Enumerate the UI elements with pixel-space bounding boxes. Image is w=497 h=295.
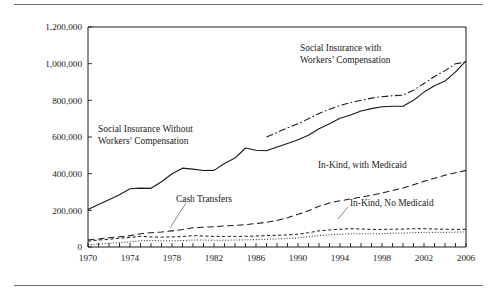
line-chart: 0200,000400,000600,000800,0001,000,0001,…	[0, 0, 497, 295]
y-tick-label: 800,000	[52, 96, 82, 106]
series-label-social-with-line2: Workers’ Compensation	[300, 55, 391, 65]
x-tick-label: 1986	[247, 253, 266, 263]
x-axis-ticks	[88, 243, 466, 247]
y-tick-label: 600,000	[52, 132, 82, 142]
y-tick-label: 1,000,000	[45, 59, 82, 69]
series-line	[88, 229, 466, 241]
x-tick-label: 2002	[415, 253, 434, 263]
series-label-social-without-line1: Social Insurance Without	[98, 124, 193, 134]
y-tick-label: 200,000	[52, 206, 82, 216]
x-tick-label: 1978	[163, 253, 182, 263]
cash-transfers-leader-line	[170, 203, 186, 228]
y-tick-label: 1,200,000	[45, 22, 82, 32]
x-tick-label: 1970	[79, 253, 98, 263]
x-axis-tick-labels: 1970197419781982198619901994199820022006	[79, 253, 476, 263]
y-axis-ticks	[88, 27, 92, 247]
series-line	[88, 232, 466, 245]
series-line	[267, 62, 467, 137]
y-axis-tick-labels: 0200,000400,000600,000800,0001,000,0001,…	[45, 22, 82, 252]
y-tick-label: 400,000	[52, 169, 82, 179]
series-label-inkind-no-medicaid: In-Kind, No Medicaid	[350, 198, 434, 208]
y-tick-label: 0	[77, 242, 82, 252]
series-label-social-with-line1: Social Insurance with	[300, 43, 382, 53]
x-tick-label: 1974	[121, 253, 140, 263]
x-tick-label: 1998	[373, 253, 392, 263]
x-tick-label: 2006	[457, 253, 476, 263]
series-label-cash-transfers: Cash Transfers	[176, 194, 232, 204]
inkind-no-medicaid-leader-line	[338, 207, 348, 219]
series-label-inkind-with-medicaid: In-Kind, with Medicaid	[318, 160, 407, 170]
x-tick-label: 1982	[205, 253, 224, 263]
x-tick-label: 1990	[289, 253, 308, 263]
data-series-group	[88, 61, 466, 245]
series-label-social-without-line2: Workers’ Compensation	[98, 136, 189, 146]
x-tick-label: 1994	[331, 253, 350, 263]
figure-container: 0200,000400,000600,000800,0001,000,0001,…	[0, 0, 497, 295]
